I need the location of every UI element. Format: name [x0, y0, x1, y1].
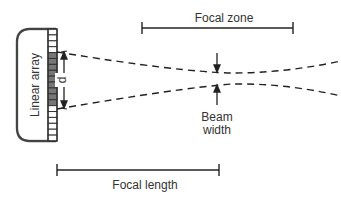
array-element — [48, 135, 57, 141]
focal-zone-label: Focal zone — [174, 11, 274, 25]
focal-length-label: Focal length — [90, 178, 200, 192]
beam-lower-edge — [57, 84, 341, 109]
array-element-active — [48, 53, 57, 59]
array-element — [48, 112, 57, 118]
array-element-active — [48, 64, 57, 70]
beam-upper-edge — [57, 52, 341, 73]
diagram-canvas: Focal zone Beam width Focal length Linea… — [0, 0, 341, 199]
array-element-active — [48, 94, 57, 100]
beam-width-label-line2: width — [192, 123, 242, 137]
array-element — [48, 129, 57, 135]
array-element — [48, 123, 57, 129]
array-element — [48, 47, 57, 53]
array-element — [48, 41, 57, 47]
focal-length-bar — [57, 164, 219, 176]
array-element — [48, 29, 57, 35]
array-element-active — [48, 88, 57, 94]
array-element-active — [48, 100, 57, 106]
beam-profile — [57, 52, 341, 109]
array-element — [48, 106, 57, 112]
beam-width-label-line1: Beam — [192, 110, 242, 124]
linear-array-label: Linear array — [28, 45, 42, 125]
aperture-label: d — [55, 73, 69, 87]
array-element — [48, 35, 57, 41]
beam-width-arrows — [214, 53, 220, 105]
array-element — [48, 117, 57, 123]
diagram-svg — [0, 0, 341, 199]
array-element-active — [48, 58, 57, 64]
